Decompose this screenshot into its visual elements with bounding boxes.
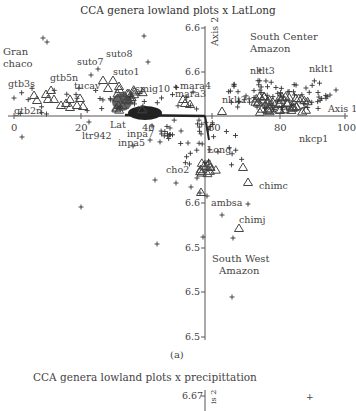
y-tick: 6.6 (185, 197, 200, 208)
plot-label: nkcp1 (299, 133, 328, 144)
y-tick: 6.5 (185, 242, 200, 253)
y-tick: 6.6 (185, 22, 200, 33)
plot-markers (30, 76, 313, 232)
plot-label: tucav (74, 80, 101, 91)
region-label: South Center (250, 31, 318, 42)
plot-label: nklt1 (309, 63, 334, 74)
axis2-label: Axis 2 (209, 17, 220, 47)
plot-label: nklt3 (250, 65, 275, 76)
plot-label: chimj (239, 214, 265, 225)
plot-label: Lat (110, 119, 126, 130)
plot-label: ltr942 (82, 130, 112, 141)
plot-label: ambsa (211, 197, 243, 208)
cca-scatter-plot: 0 20 40 60 80 100 6.6 6.6 6.6 6.5 6.5 6.… (0, 0, 356, 411)
plot-label: suto8 (106, 48, 133, 59)
x-tick-100: 100 (337, 122, 356, 133)
region-label: South West (212, 253, 269, 264)
region-label: chaco (3, 58, 33, 69)
plus-marker: + (306, 392, 314, 402)
plot-label: suto7 (77, 56, 104, 67)
y-tick: 6.6 (185, 66, 200, 77)
x-tick-0: 0 (11, 122, 17, 133)
y-tick: 6.5 (185, 286, 200, 297)
plot-label: gtb3s (8, 78, 35, 89)
plot-label: suto1 (113, 66, 140, 77)
panel-label: (a) (170, 349, 184, 360)
region-label: Gran (3, 46, 29, 57)
x-tick-60: 60 (208, 122, 221, 133)
next-panel-axis2-label: is 2 (209, 390, 218, 404)
region-label: Amazon (218, 265, 260, 276)
plot-label: mara3 (175, 88, 206, 99)
y-ticks (201, 28, 205, 337)
plot-label: chimc (259, 180, 288, 191)
plot-label: gtb2n (14, 105, 42, 116)
region-label: Amazon (249, 43, 291, 54)
next-panel-title: CCA genera lowland plots x precipittatio… (33, 371, 257, 383)
y-tick: 6.5 (185, 331, 200, 342)
plot-labels: gtb3s gtb5n gtb2n suto7 suto8 suto1 tuca… (8, 48, 334, 225)
axis1-label: Axis 1 (327, 103, 356, 114)
next-panel-y-tick: 6.67 (182, 390, 203, 401)
plot-label: cho2 (166, 164, 189, 175)
x-tick-80: 80 (274, 122, 287, 133)
